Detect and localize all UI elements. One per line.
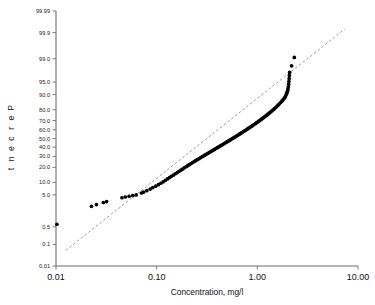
data-point xyxy=(134,193,138,197)
y-tick-label: 10.0 xyxy=(39,179,50,185)
y-axis-title-letter: n xyxy=(6,156,16,161)
y-tick-label: 0.1 xyxy=(42,241,50,247)
y-tick-label: 90.0 xyxy=(39,92,50,98)
y-tick-label: 99.99 xyxy=(36,8,50,14)
reference-fit-line xyxy=(66,29,345,250)
data-point xyxy=(142,190,146,194)
y-tick-label: 0.5 xyxy=(42,224,50,230)
data-point xyxy=(145,189,149,193)
data-point xyxy=(290,64,294,68)
y-axis-title-letter: e xyxy=(6,115,16,120)
y-tick-label: 5.0 xyxy=(42,192,50,198)
data-point xyxy=(105,200,109,204)
data-point xyxy=(127,194,131,198)
data-point xyxy=(90,204,94,208)
x-axis-title-text: Concentration, mg/l xyxy=(171,287,244,297)
x-tick-label: 1.00 xyxy=(249,272,267,282)
y-tick-label: 40.0 xyxy=(39,144,50,150)
data-point xyxy=(288,71,292,75)
probability-plot-canvas: 99.9999.999.095.090.080.070.060.050.040.… xyxy=(0,0,375,305)
x-tick-label: 10.00 xyxy=(347,272,370,282)
data-point xyxy=(131,194,135,198)
y-axis-title: Percent xyxy=(6,105,16,171)
y-tick-label: 30.0 xyxy=(39,153,50,159)
y-tick-label: 60.0 xyxy=(39,127,50,133)
y-tick-label: 50.0 xyxy=(39,136,50,142)
y-tick-label: 80.0 xyxy=(39,107,50,113)
y-tick-label: 0.01 xyxy=(39,263,50,269)
data-point xyxy=(101,201,105,205)
y-tick-label: 20.0 xyxy=(39,164,50,170)
y-tick-label: 99.0 xyxy=(39,56,50,62)
y-tick-label: 95.0 xyxy=(39,79,50,85)
x-axis-ticks: 0.010.101.0010.00 xyxy=(47,266,369,282)
x-axis-title: Concentration, mg/l xyxy=(171,287,244,297)
data-point xyxy=(55,222,59,226)
probability-plot-figure: 99.9999.999.095.090.080.070.060.050.040.… xyxy=(0,0,375,305)
y-tick-label: 99.9 xyxy=(39,30,50,36)
y-tick-label: 70.0 xyxy=(39,118,50,124)
data-point xyxy=(123,195,127,199)
data-point xyxy=(95,203,99,207)
y-axis-title-letter: r xyxy=(6,127,16,130)
x-tick-label: 0.01 xyxy=(47,272,65,282)
y-axis-title-letter: e xyxy=(6,146,16,151)
y-axis-ticks: 99.9999.999.095.090.080.070.060.050.040.… xyxy=(36,8,56,269)
y-axis-title-letter: c xyxy=(6,136,16,141)
y-axis-title-letter: t xyxy=(6,167,16,170)
reference-line xyxy=(66,29,345,250)
data-point xyxy=(292,56,296,60)
x-tick-label: 0.10 xyxy=(148,272,166,282)
data-point xyxy=(120,196,124,200)
data-points-series xyxy=(55,56,296,227)
y-axis-title-letter: P xyxy=(6,105,16,111)
